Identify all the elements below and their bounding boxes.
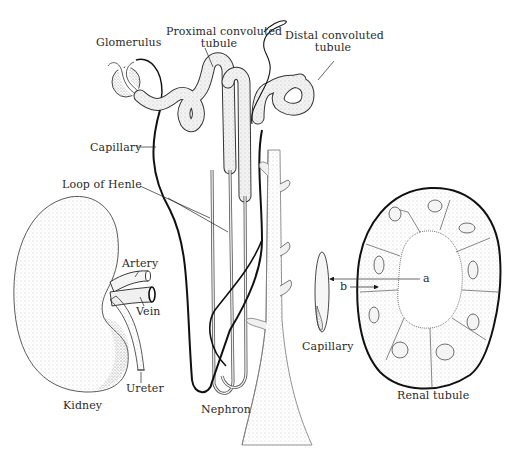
renal-tubule-drawing — [330, 188, 500, 389]
label-arrow-a: a — [423, 273, 430, 285]
label-artery: Artery — [122, 258, 158, 270]
capillary-cross-section — [315, 252, 329, 332]
label-capillary-cross-section: Capillary — [302, 341, 354, 353]
label-distal-convoluted-tubule: Distal convoluted tubule — [285, 30, 381, 54]
illustration — [0, 0, 513, 450]
kidney-drawing — [14, 196, 155, 392]
caption-kidney: Kidney — [63, 400, 102, 412]
label-proximal-convoluted-tubule: Proximal convoluted tubule — [166, 26, 272, 50]
label-vein: Vein — [136, 306, 160, 318]
label-proximal-line2: tubule — [166, 38, 272, 50]
label-glomerulus: Glomerulus — [96, 37, 161, 49]
label-loop-of-henle: Loop of Henle — [62, 179, 142, 191]
label-distal-line2: tubule — [285, 42, 381, 54]
caption-nephron: Nephron — [201, 404, 251, 416]
label-ureter: Ureter — [126, 383, 164, 395]
caption-renal-tubule: Renal tubule — [397, 390, 469, 402]
label-capillary-top: Capillary — [90, 142, 142, 154]
label-arrow-b: b — [340, 281, 347, 293]
diagram-canvas: Glomerulus Proximal convoluted tubule Di… — [0, 0, 513, 450]
